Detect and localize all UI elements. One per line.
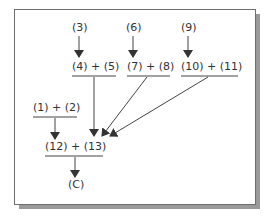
node-result-c: (C) — [68, 179, 84, 191]
node-sum-4-5: (4) + (5) — [72, 61, 119, 73]
node-sum-7-8: (7) + (8) — [127, 61, 174, 73]
node-sum-12-13: (12) + (13) — [45, 141, 106, 153]
node-sum-1-2: (1) + (2) — [33, 102, 80, 114]
node-3: (3) — [72, 22, 88, 34]
node-9: (9) — [181, 22, 197, 34]
node-sum-10-11: (10) + (11) — [181, 61, 242, 73]
node-6: (6) — [126, 22, 142, 34]
